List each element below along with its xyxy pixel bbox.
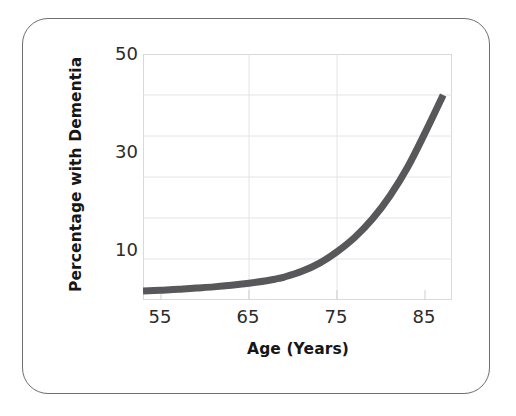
x-tick-label-group: 55 65 75 85	[143, 306, 452, 332]
y-tick-label-group: 50 30 10	[94, 54, 138, 300]
x-tick-label-65: 65	[222, 306, 274, 327]
x-axis-title: Age (Years)	[143, 340, 453, 358]
x-tick-label-85: 85	[398, 306, 450, 327]
x-tick-label-75: 75	[310, 306, 362, 327]
chart-figure: Percentage with Dementia 50 30 10	[0, 0, 516, 416]
x-tick-label-55: 55	[134, 306, 186, 327]
y-tick-label-50: 50	[98, 43, 138, 64]
y-tick-label-30: 30	[98, 141, 138, 162]
plot-area	[143, 54, 452, 300]
y-tick-label-10: 10	[98, 239, 138, 260]
plot-svg	[143, 54, 452, 300]
y-axis-title: Percentage with Dementia	[67, 62, 85, 292]
